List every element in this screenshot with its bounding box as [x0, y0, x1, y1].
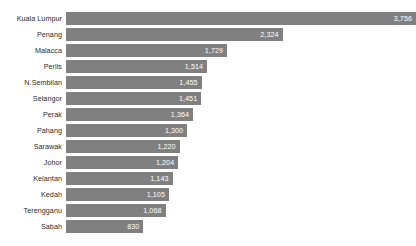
category-label: Penang — [0, 28, 66, 41]
bar-track: 1,143 — [66, 172, 416, 185]
bar-value-label: 1,068 — [143, 204, 165, 217]
bar[interactable]: 1,204 — [66, 156, 178, 169]
bar-row: Penang2,324 — [0, 28, 416, 41]
bar-value-label: 830 — [127, 220, 143, 233]
category-label: Pahang — [0, 124, 66, 137]
bar[interactable]: 1,514 — [66, 60, 207, 73]
bar-row: Selangor1,451 — [0, 92, 416, 105]
bar-row: Perlis1,514 — [0, 60, 416, 73]
bar-track: 1,105 — [66, 188, 416, 201]
bar-track: 1,220 — [66, 140, 416, 153]
bar-row: Kedah1,105 — [0, 188, 416, 201]
category-label: Johor — [0, 156, 66, 169]
bar[interactable]: 830 — [66, 220, 143, 233]
category-label: Perak — [0, 108, 66, 121]
bar-row: Pahang1,300 — [0, 124, 416, 137]
bar-row: Kuala Lumpur3,756 — [0, 12, 416, 25]
bar[interactable]: 1,300 — [66, 124, 187, 137]
bar-track: 1,300 — [66, 124, 416, 137]
bar-track: 1,514 — [66, 60, 416, 73]
bar-track: 1,729 — [66, 44, 416, 57]
category-label: Selangor — [0, 92, 66, 105]
bar[interactable]: 1,143 — [66, 172, 173, 185]
horizontal-bar-chart: Kuala Lumpur3,756Penang2,324Malacca1,729… — [0, 0, 416, 246]
bar[interactable]: 1,220 — [66, 140, 180, 153]
bar[interactable]: 1,105 — [66, 188, 169, 201]
bar-row: Kelantan1,143 — [0, 172, 416, 185]
bar-value-label: 1,220 — [157, 140, 179, 153]
category-label: Kedah — [0, 188, 66, 201]
bar-track: 1,451 — [66, 92, 416, 105]
bar-track: 830 — [66, 220, 416, 233]
bar-value-label: 1,514 — [185, 60, 207, 73]
bar-track: 1,364 — [66, 108, 416, 121]
bar-row: Sarawak1,220 — [0, 140, 416, 153]
bar-row: Sabah830 — [0, 220, 416, 233]
bar-value-label: 1,364 — [171, 108, 193, 121]
bar-row: Terengganu1,068 — [0, 204, 416, 217]
bar-value-label: 1,455 — [179, 76, 201, 89]
bar-value-label: 2,324 — [260, 28, 282, 41]
bar-track: 1,455 — [66, 76, 416, 89]
category-label: Kuala Lumpur — [0, 12, 66, 25]
bar[interactable]: 1,068 — [66, 204, 166, 217]
category-label: Malacca — [0, 44, 66, 57]
bar-value-label: 1,204 — [156, 156, 178, 169]
bar-row: Malacca1,729 — [0, 44, 416, 57]
bar[interactable]: 3,756 — [66, 12, 416, 25]
bar-value-label: 3,756 — [394, 12, 416, 25]
bar[interactable]: 1,729 — [66, 44, 227, 57]
bar[interactable]: 2,324 — [66, 28, 283, 41]
bar-value-label: 1,105 — [147, 188, 169, 201]
category-label: Perlis — [0, 60, 66, 73]
category-label: Kelantan — [0, 172, 66, 185]
category-label: Sarawak — [0, 140, 66, 153]
bar-value-label: 1,729 — [205, 44, 227, 57]
bar-value-label: 1,143 — [150, 172, 172, 185]
bar-value-label: 1,451 — [179, 92, 201, 105]
bar-track: 1,204 — [66, 156, 416, 169]
bar-track: 1,068 — [66, 204, 416, 217]
category-label: N.Sembilan — [0, 76, 66, 89]
bar-track: 3,756 — [66, 12, 416, 25]
bar[interactable]: 1,364 — [66, 108, 193, 121]
bar[interactable]: 1,451 — [66, 92, 201, 105]
bar-row: Perak1,364 — [0, 108, 416, 121]
bar[interactable]: 1,455 — [66, 76, 202, 89]
bar-value-label: 1,300 — [165, 124, 187, 137]
bar-rows-container: Kuala Lumpur3,756Penang2,324Malacca1,729… — [0, 12, 416, 233]
bar-row: Johor1,204 — [0, 156, 416, 169]
bar-row: N.Sembilan1,455 — [0, 76, 416, 89]
category-label: Sabah — [0, 220, 66, 233]
bar-track: 2,324 — [66, 28, 416, 41]
category-label: Terengganu — [0, 204, 66, 217]
